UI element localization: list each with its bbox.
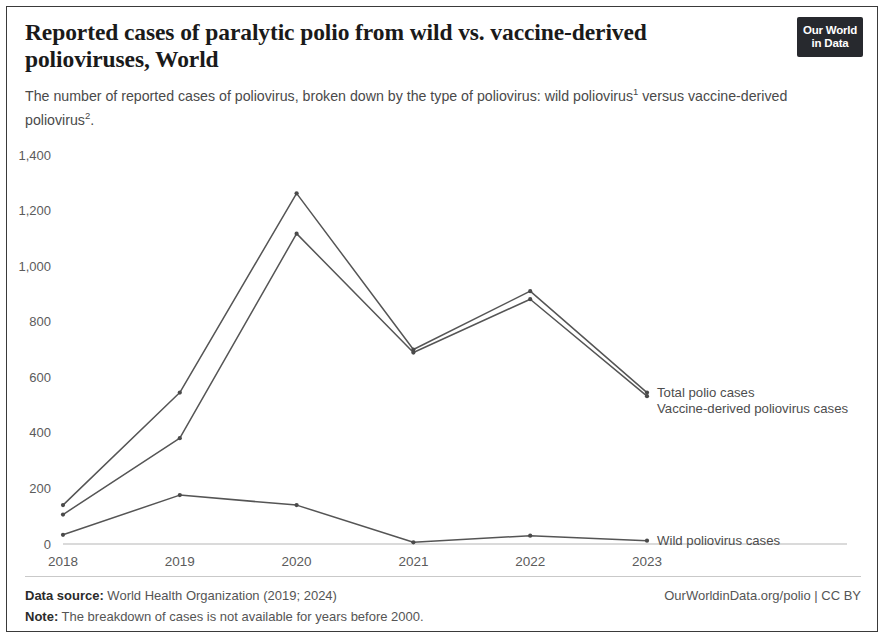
chart-subtitle: The number of reported cases of poliovir… (25, 82, 855, 130)
data-point-marker (295, 191, 299, 195)
x-axis-tick-labels: 201820192020202120222023 (48, 554, 662, 569)
series-label-1[interactable]: Total polio cases (657, 385, 755, 400)
data-point-marker (411, 540, 415, 544)
data-point-marker (645, 539, 649, 543)
y-axis-tick-label: 0 (44, 537, 51, 552)
chart-svg: 02004006008001,0001,2001,400 20182019202… (7, 139, 877, 569)
data-point-marker (61, 533, 65, 537)
source-label: Data source: (25, 588, 104, 603)
data-point-marker (528, 534, 532, 538)
series-inline-labels: Total polio casesVaccine-derived poliovi… (657, 385, 848, 548)
y-axis-tick-label: 1,200 (18, 203, 51, 218)
x-axis-tick-label: 2019 (165, 554, 195, 569)
data-point-marker (645, 394, 649, 398)
data-point-marker (528, 297, 532, 301)
series-line (63, 193, 647, 505)
data-point-marker (178, 493, 182, 497)
x-axis-tick-label: 2021 (398, 554, 428, 569)
data-point-marker (178, 390, 182, 394)
subtitle-text-part3: . (90, 112, 94, 128)
page-title: Reported cases of paralytic polio from w… (25, 19, 715, 73)
subtitle-text-part1: The number of reported cases of poliovir… (25, 88, 633, 104)
chart-footer: Data source: World Health Organization (… (25, 585, 861, 627)
logo-line-1: Our World (803, 24, 857, 37)
y-axis-tick-label: 800 (29, 314, 51, 329)
series-markers (61, 191, 649, 544)
x-axis-tick-label: 2022 (515, 554, 545, 569)
x-axis-tick-label: 2020 (282, 554, 312, 569)
logo-line-2: in Data (812, 37, 849, 50)
y-axis-tick-label: 600 (29, 370, 51, 385)
data-point-marker (411, 350, 415, 354)
data-point-marker (61, 503, 65, 507)
series-lines (63, 193, 647, 542)
series-line (63, 495, 647, 542)
series-label-2[interactable]: Vaccine-derived poliovirus cases (657, 401, 848, 416)
x-axis-tick-label: 2018 (48, 554, 78, 569)
y-axis-tick-label: 1,400 (18, 148, 51, 163)
footer-source-row: Data source: World Health Organization (… (25, 585, 861, 606)
data-point-marker (295, 503, 299, 507)
footer-divider (25, 576, 861, 577)
y-axis-tick-label: 200 (29, 481, 51, 496)
series-line (63, 234, 647, 515)
data-point-marker (295, 232, 299, 236)
note-label: Note: (25, 609, 58, 624)
chart-card: Reported cases of paralytic polio from w… (6, 6, 878, 632)
data-point-marker (645, 390, 649, 394)
attribution-link[interactable]: OurWorldinData.org/polio | CC BY (664, 585, 861, 606)
chart-header: Reported cases of paralytic polio from w… (25, 19, 861, 130)
y-axis-tick-label: 1,000 (18, 259, 51, 274)
y-axis-tick-labels: 02004006008001,0001,2001,400 (18, 148, 51, 552)
source-value: World Health Organization (2019; 2024) (104, 588, 337, 603)
data-point-marker (61, 512, 65, 516)
data-point-marker (528, 289, 532, 293)
series-label-3[interactable]: Wild poliovirus cases (657, 533, 781, 548)
note-value: The breakdown of cases is not available … (58, 609, 423, 624)
owid-logo[interactable]: Our World in Data (797, 17, 863, 57)
y-axis-tick-label: 400 (29, 425, 51, 440)
line-chart: 02004006008001,0001,2001,400 20182019202… (7, 139, 877, 569)
footer-note-row: Note: The breakdown of cases is not avai… (25, 606, 861, 627)
x-axis-tick-label: 2023 (632, 554, 662, 569)
data-point-marker (178, 436, 182, 440)
